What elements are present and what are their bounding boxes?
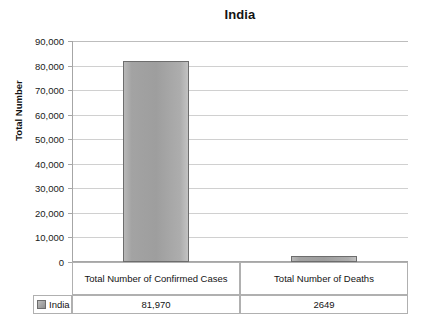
plot-area [72, 41, 408, 262]
table-value-confirmed-cases: 81,970 [72, 295, 240, 314]
y-axis-tick-label: 20,000 [4, 207, 64, 218]
table-header-deaths: Total Number of Deaths [240, 262, 408, 295]
table-header-confirmed-cases: Total Number of Confirmed Cases [72, 262, 240, 295]
y-axis-tick-label: 90,000 [4, 36, 64, 47]
chart-container: India Total Number 90,00080,00070,00060,… [0, 0, 424, 329]
bar-confirmed-cases [123, 61, 189, 262]
chart-title: India [72, 7, 408, 22]
table-row: India 81,970 2649 [33, 295, 408, 314]
y-axis-tick-label: 30,000 [4, 183, 64, 194]
chart-data-table: Total Number of Confirmed Cases Total Nu… [33, 262, 408, 314]
table-row: Total Number of Confirmed Cases Total Nu… [33, 262, 408, 295]
table-value-deaths: 2649 [240, 295, 408, 314]
table-legend-cell-empty [33, 262, 72, 295]
table-legend-cell-india: India [33, 295, 72, 314]
y-axis-tick-label: 10,000 [4, 232, 64, 243]
y-axis-title: Total Number [13, 61, 24, 161]
legend-label-india: India [49, 299, 70, 311]
legend-swatch-icon [37, 300, 46, 309]
